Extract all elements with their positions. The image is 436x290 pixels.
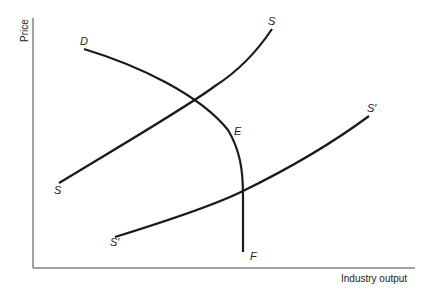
label-s-bottom: S [54, 184, 62, 196]
label-s-top: S [268, 15, 276, 27]
label-s-prime-bottom: S′ [110, 236, 120, 248]
label-d: D [80, 35, 88, 47]
label-e: E [234, 125, 242, 137]
label-f: F [250, 250, 258, 262]
y-axis-label: Price [19, 19, 30, 42]
x-axis-label: Industry output [341, 273, 407, 284]
label-s-prime-top: S′ [367, 102, 377, 114]
supply-demand-diagram: Price Industry output D E F S S S′ S′ [0, 0, 436, 290]
